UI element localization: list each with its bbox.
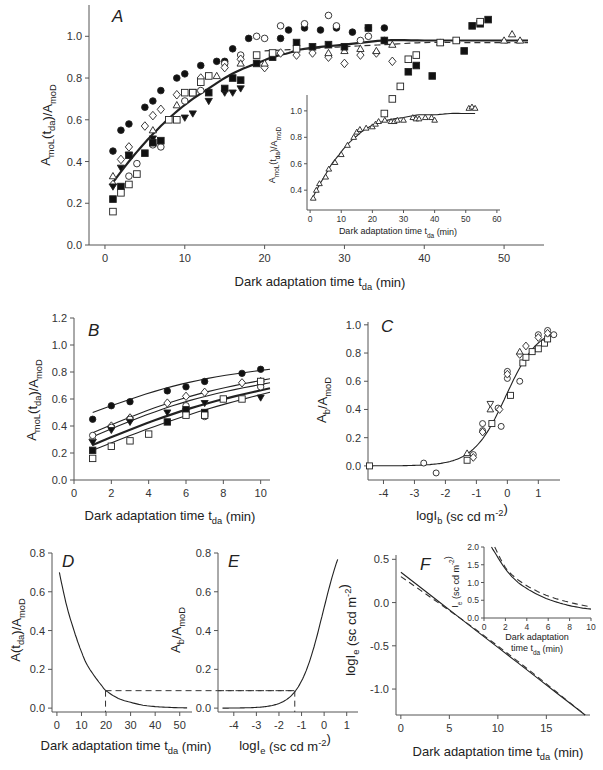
data-point: [477, 18, 484, 25]
inset-x-axis-label: Dark adaptation time tda (min): [339, 226, 457, 239]
data-point: [145, 431, 151, 437]
data-point: [317, 27, 324, 34]
series-open-square: [89, 378, 263, 461]
x-axis-label: Dark adaptation time tda (min): [235, 274, 406, 292]
data-point: [149, 127, 156, 133]
data-point: [181, 98, 188, 105]
y-tick-label: 0.0: [196, 702, 211, 714]
x-tick-label: 20: [368, 214, 378, 224]
y-tick-label: 1.5: [467, 560, 479, 570]
data-point: [117, 155, 124, 164]
x-tick-label: 40: [149, 719, 161, 731]
series-filled-triangle-down: [89, 395, 264, 446]
data-point: [118, 127, 125, 134]
data-point: [229, 90, 236, 96]
data-point: [189, 89, 196, 96]
x-tick-label: 4: [524, 622, 529, 632]
data-point: [221, 85, 228, 92]
data-point: [253, 52, 260, 59]
x-axis-label: Dark adaptation time tda (min): [41, 738, 212, 756]
data-point: [469, 23, 476, 30]
x-tick-label: 30: [399, 214, 409, 224]
data-point: [183, 412, 189, 418]
panel-e: -4-3-2-1010.00.20.40.60.8Ab/AmoDlogIe (s…: [168, 547, 358, 756]
data-point: [498, 423, 504, 429]
data-point: [413, 52, 420, 59]
panel-label: E: [228, 552, 240, 571]
y-tick-label: 1.0: [67, 30, 82, 42]
data-point: [429, 73, 436, 80]
data-point: [238, 379, 245, 387]
data-point: [213, 72, 220, 78]
y-tick-label: 0.2: [52, 447, 67, 459]
data-point: [126, 173, 133, 180]
data-point: [213, 58, 220, 65]
data-point: [150, 139, 157, 146]
inset-line-solid: [492, 547, 592, 609]
data-point: [239, 370, 245, 376]
x-tick-label: 0: [54, 719, 60, 731]
data-point: [433, 470, 439, 476]
y-axis-label: Ab/AmoD: [168, 607, 187, 653]
data-point: [405, 68, 412, 75]
y-tick-label: 0.2: [346, 432, 361, 444]
data-point: [110, 208, 117, 215]
y-tick-label: 1.0: [467, 578, 479, 588]
data-point: [325, 41, 332, 48]
x-tick-label: 0: [482, 622, 487, 632]
data-point: [285, 27, 292, 34]
data-point: [237, 77, 244, 84]
data-point: [158, 87, 165, 94]
data-point: [523, 354, 529, 360]
data-point: [183, 384, 189, 390]
y-tick-label: 0.6: [346, 375, 361, 387]
data-point: [381, 25, 388, 32]
y-tick-label: 0.2: [30, 663, 45, 675]
data-point: [174, 75, 181, 82]
y-tick-label: 0.8: [67, 72, 82, 84]
data-point: [325, 12, 332, 19]
data-point: [164, 399, 171, 407]
panel-label: C: [381, 317, 394, 336]
data-point: [109, 173, 116, 179]
data-point: [389, 96, 396, 103]
x-tick-label: -4: [379, 487, 389, 499]
y-tick-label: 1.0: [52, 339, 67, 351]
data-point: [173, 90, 180, 99]
data-point: [158, 144, 165, 151]
data-point: [517, 378, 523, 384]
data-point: [197, 79, 204, 86]
data-point: [157, 105, 164, 114]
data-point: [141, 122, 148, 131]
data-point: [277, 35, 284, 42]
y-tick-label: 0.0: [67, 239, 82, 251]
panel-label: D: [62, 552, 74, 571]
inset-y-axis-label: Ie (sc cd m-2): [443, 556, 463, 607]
series-open-triangle-down: [487, 401, 494, 407]
y-tick-label: 0.0: [30, 702, 45, 714]
panel-label: F: [420, 555, 432, 574]
data-point: [229, 46, 236, 53]
y-axis-label: logIe (sc cd m-2): [336, 584, 361, 676]
panel-b: 02468100.00.20.40.60.81.01.2AmoL(tda)/Am…: [24, 312, 270, 526]
x-tick-label: -3: [251, 719, 261, 731]
data-point: [293, 46, 300, 53]
inset-fit-line: [313, 113, 475, 196]
y-tick-label: 0.8: [346, 347, 361, 359]
fit-line: [368, 333, 554, 466]
x-tick-label: -2: [441, 487, 451, 499]
x-tick-label: 0: [398, 722, 404, 734]
data-point: [376, 119, 382, 124]
x-tick-label: 10: [75, 719, 87, 731]
data-point: [125, 143, 132, 152]
data-point: [520, 360, 526, 366]
data-point: [205, 73, 212, 80]
curve-line: [59, 572, 187, 708]
data-point: [516, 348, 523, 354]
data-point: [126, 152, 133, 159]
data-point: [89, 416, 95, 422]
data-point: [89, 447, 95, 453]
data-point: [164, 388, 170, 394]
x-axis-label: logIe (sc cd m-2): [239, 731, 331, 756]
y-tick-label: 0.2: [67, 197, 82, 209]
